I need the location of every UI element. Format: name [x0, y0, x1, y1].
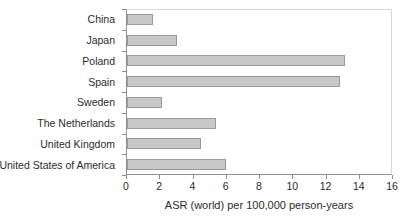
y-axis-tick [122, 134, 126, 135]
bar [127, 118, 216, 129]
x-axis-tick-label: 0 [123, 180, 129, 192]
x-axis-tick [159, 175, 160, 179]
x-axis-tick [392, 175, 393, 179]
bar [127, 76, 340, 87]
category-label: The Netherlands [0, 113, 120, 134]
x-axis-tick-label: 14 [353, 180, 365, 192]
category-label: Spain [0, 71, 120, 92]
y-axis-tick [122, 175, 126, 176]
x-axis-tick-label: 10 [286, 180, 298, 192]
x-axis-tick [259, 175, 260, 179]
y-axis-tick [122, 154, 126, 155]
bar-chart: ChinaJapanPolandSpainSwedenThe Netherlan… [0, 0, 418, 221]
y-axis-tick [122, 30, 126, 31]
x-axis-tick-label: 16 [386, 180, 398, 192]
y-axis-tick [122, 51, 126, 52]
bar [127, 138, 201, 149]
category-label: Poland [0, 51, 120, 72]
bar [127, 97, 162, 108]
x-axis-tick-label: 8 [256, 180, 262, 192]
category-axis: ChinaJapanPolandSpainSwedenThe Netherlan… [0, 9, 120, 175]
category-label: Japan [0, 30, 120, 51]
category-label: China [0, 9, 120, 30]
bar [127, 35, 177, 46]
y-axis-tick [122, 9, 126, 10]
x-axis-tick [359, 175, 360, 179]
x-axis-tick-label: 12 [320, 180, 332, 192]
bar [127, 159, 226, 170]
bar [127, 14, 153, 25]
x-axis-tick-label: 2 [156, 180, 162, 192]
category-label: United States of America [0, 154, 120, 175]
x-axis-tick [193, 175, 194, 179]
category-label: United Kingdom [0, 134, 120, 155]
x-axis-tick [126, 175, 127, 179]
y-axis-tick [122, 113, 126, 114]
x-axis-tick-label: 4 [190, 180, 196, 192]
plot-area [126, 9, 392, 175]
x-axis-tick-label: 6 [223, 180, 229, 192]
y-axis-tick [122, 71, 126, 72]
bar [127, 55, 345, 66]
x-axis-tick [326, 175, 327, 179]
category-label: Sweden [0, 92, 120, 113]
x-axis-title: ASR (world) per 100,000 person-years [126, 199, 392, 211]
x-axis-tick [292, 175, 293, 179]
x-axis-tick [226, 175, 227, 179]
y-axis-tick [122, 92, 126, 93]
